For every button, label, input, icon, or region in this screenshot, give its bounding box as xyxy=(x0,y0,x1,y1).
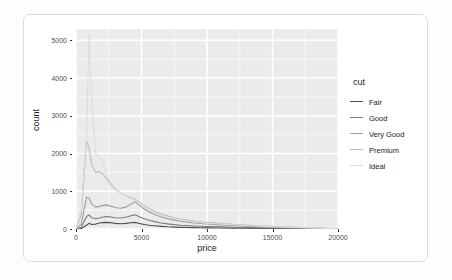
legend-item-good[interactable]: Good xyxy=(349,110,427,126)
legend-key-line-icon xyxy=(349,95,364,109)
y-tick-label: 0 xyxy=(23,226,67,233)
x-axis-title: price xyxy=(76,243,338,253)
legend-key-line-icon xyxy=(349,143,364,157)
legend-item-very-good[interactable]: Very Good xyxy=(349,126,427,142)
legend-key-line-icon xyxy=(349,159,364,173)
screenshot-root: 010002000300040005000 050001000015000200… xyxy=(0,0,452,280)
legend-item-label: Good xyxy=(369,114,387,123)
legend-item-premium[interactable]: Premium xyxy=(349,142,427,158)
y-axis-title: count xyxy=(31,70,41,170)
x-tick-label: 0 xyxy=(74,234,78,241)
x-tick-mark xyxy=(142,229,143,232)
plot-card: 010002000300040005000 050001000015000200… xyxy=(23,14,428,262)
legend-item-label: Fair xyxy=(369,98,382,107)
chart-legend: cut FairGoodVery GoodPremiumIdeal xyxy=(349,77,427,174)
y-tick-mark xyxy=(70,229,73,230)
chart-plot-area xyxy=(76,29,338,229)
x-tick-mark xyxy=(338,229,339,232)
y-tick-label: 2000 xyxy=(23,150,67,157)
legend-item-label: Ideal xyxy=(369,162,385,171)
chart-figure: 010002000300040005000 050001000015000200… xyxy=(24,15,429,263)
legend-item-label: Premium xyxy=(369,146,399,155)
x-tick-label: 20000 xyxy=(328,234,347,241)
legend-key-line-icon xyxy=(349,111,364,125)
x-tick-mark xyxy=(273,229,274,232)
legend-items: FairGoodVery GoodPremiumIdeal xyxy=(349,94,427,174)
y-tick-mark xyxy=(70,40,73,41)
y-tick-label: 1000 xyxy=(23,188,67,195)
x-tick-label: 15000 xyxy=(263,234,282,241)
y-tick-mark xyxy=(70,191,73,192)
y-tick-label: 3000 xyxy=(23,112,67,119)
x-tick-label: 10000 xyxy=(197,234,216,241)
y-tick-label: 4000 xyxy=(23,75,67,82)
x-tick-mark xyxy=(207,229,208,232)
y-tick-mark xyxy=(70,78,73,79)
legend-item-fair[interactable]: Fair xyxy=(349,94,427,110)
legend-title: cut xyxy=(349,77,427,87)
legend-item-label: Very Good xyxy=(369,130,404,139)
legend-item-ideal[interactable]: Ideal xyxy=(349,158,427,174)
x-tick-label: 5000 xyxy=(134,234,150,241)
y-tick-mark xyxy=(70,116,73,117)
x-tick-mark xyxy=(76,229,77,232)
y-tick-label: 5000 xyxy=(23,37,67,44)
plot-panel xyxy=(76,29,338,229)
y-tick-mark xyxy=(70,154,73,155)
legend-key-line-icon xyxy=(349,127,364,141)
